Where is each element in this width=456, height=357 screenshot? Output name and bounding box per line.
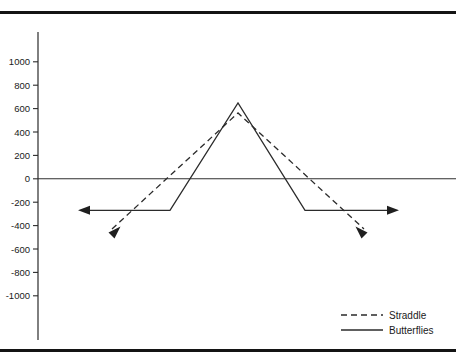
payoff-chart: 1000 800 600 400 200 0 -200 -400 -600 -8… [0, 0, 456, 357]
y-tick-label: -600 [11, 244, 30, 255]
y-tick-label: 200 [14, 150, 30, 161]
y-axis-ticks [33, 62, 38, 296]
y-tick-label: -400 [11, 220, 30, 231]
y-tick-label: -800 [11, 267, 30, 278]
bottom-horizontal-rule [0, 349, 456, 352]
y-tick-label: 400 [14, 127, 30, 138]
chart-legend: Straddle Butterflies [341, 310, 433, 336]
y-tick-label: 600 [14, 103, 30, 114]
chart-svg: 1000 800 600 400 200 0 -200 -400 -600 -8… [0, 0, 456, 357]
straddle-right-arrowhead [356, 227, 368, 239]
legend-label-straddle: Straddle [389, 310, 427, 321]
y-tick-label: -1000 [6, 290, 30, 301]
series-line-straddle [112, 113, 364, 229]
straddle-left-arrowhead [109, 227, 121, 239]
series-line-butterflies [82, 103, 395, 210]
butterflies-right-arrowhead [387, 206, 399, 215]
butterflies-left-arrowhead [78, 206, 90, 215]
y-tick-label: -200 [11, 197, 30, 208]
y-tick-label: 0 [25, 173, 30, 184]
y-tick-label: 1000 [9, 56, 30, 67]
legend-label-butterflies: Butterflies [389, 325, 433, 336]
y-axis-tick-labels: 1000 800 600 400 200 0 -200 -400 -600 -8… [6, 56, 30, 301]
y-tick-label: 800 [14, 80, 30, 91]
